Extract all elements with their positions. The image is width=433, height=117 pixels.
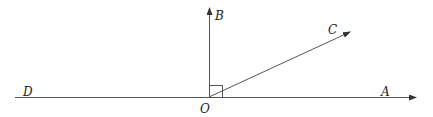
label-c: C [328, 24, 337, 36]
label-b: B [215, 10, 224, 22]
ray-oc [209, 32, 350, 97]
label-a: A [381, 86, 390, 98]
label-d: D [23, 86, 33, 98]
label-o: O [200, 103, 210, 115]
